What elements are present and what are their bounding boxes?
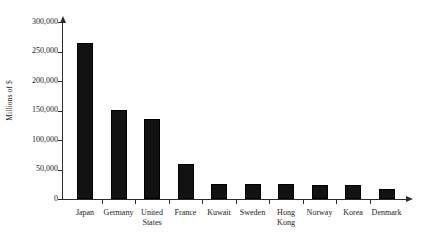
y-axis-tick-mark	[58, 140, 63, 141]
x-axis-category-label: Hong Kong	[269, 208, 303, 227]
x-axis-tick-mark	[102, 200, 103, 204]
y-axis-tick-mark	[58, 22, 63, 23]
y-axis-tick-label: 150,000	[32, 105, 58, 114]
x-axis-tick-mark	[135, 200, 136, 204]
x-axis-tick-mark	[202, 200, 203, 204]
bar-chart-figure: Millions of $ 050,000100,000150,000200,0…	[0, 0, 422, 246]
bar	[278, 184, 294, 199]
bar	[345, 185, 361, 199]
y-axis-tick-mark	[58, 199, 63, 200]
y-axis-title-label: Millions of $	[5, 80, 14, 120]
bar	[178, 164, 194, 199]
bar	[111, 110, 127, 199]
x-axis-category-label: United States	[135, 208, 169, 227]
bar	[211, 184, 227, 199]
bar	[245, 184, 261, 199]
y-axis-tick-mark	[58, 170, 63, 171]
x-axis-category-label: Germany	[102, 208, 136, 218]
y-axis-tick-label: 300,000	[32, 17, 58, 26]
y-axis-tick-label: 0	[54, 194, 58, 203]
x-axis-tick-mark	[236, 200, 237, 204]
plot-area: 050,000100,000150,000200,000250,000300,0…	[62, 22, 410, 200]
x-axis-tick-mark	[269, 200, 270, 204]
y-axis-title: Millions of $	[0, 0, 18, 200]
x-axis-arrow-icon	[406, 196, 413, 202]
y-axis-tick-label: 100,000	[32, 135, 58, 144]
x-axis-category-label: France	[169, 208, 203, 218]
y-axis-tick-label: 200,000	[32, 76, 58, 85]
bar	[77, 43, 93, 199]
bar	[144, 119, 160, 199]
x-axis-category-label: Korea	[336, 208, 370, 218]
y-axis-tick-label: 250,000	[32, 46, 58, 55]
x-axis-tick-mark	[336, 200, 337, 204]
y-axis-tick-label: 50,000	[36, 164, 58, 173]
y-axis-tick-mark	[58, 81, 63, 82]
x-axis-category-label: Sweden	[236, 208, 270, 218]
y-axis-tick-mark	[58, 52, 63, 53]
x-axis-tick-mark	[370, 200, 371, 204]
bar	[312, 185, 328, 199]
x-axis-category-label: Denmark	[370, 208, 404, 218]
x-axis-category-label: Norway	[303, 208, 337, 218]
x-axis-tick-mark	[169, 200, 170, 204]
x-axis-tick-mark	[303, 200, 304, 204]
y-axis-tick-mark	[58, 111, 63, 112]
x-axis-category-label: Japan	[68, 208, 102, 218]
x-axis-category-label: Kuwait	[202, 208, 236, 218]
x-axis-line	[62, 199, 407, 200]
bar	[379, 189, 395, 199]
